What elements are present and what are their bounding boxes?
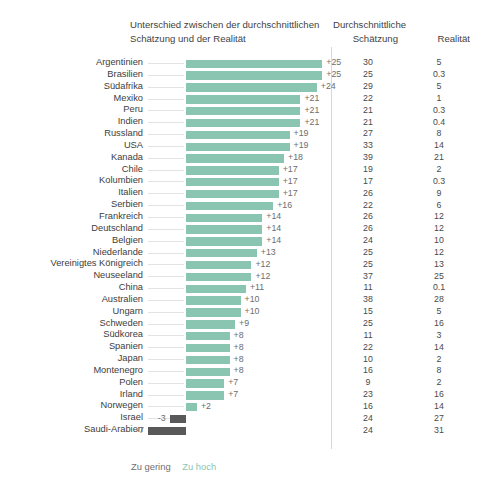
average-estimate-value: 10 [340, 354, 396, 366]
reality-value: 14 [410, 342, 468, 354]
reality-value: 12 [410, 247, 468, 259]
difference-title-line2: Schätzung und der Realität [130, 33, 246, 44]
difference-value-label: +25 [326, 57, 341, 69]
difference-bar [148, 427, 186, 435]
difference-bar [186, 332, 230, 340]
average-estimate-value: 16 [340, 401, 396, 413]
difference-value-label: +18 [288, 152, 303, 164]
estimate-column-title: Durchschnittliche Schätzung [333, 18, 405, 45]
difference-bar [170, 415, 186, 423]
average-estimate-value: 21 [340, 105, 396, 117]
reality-value: 0.3 [410, 69, 468, 81]
average-estimate-value: 39 [340, 152, 396, 164]
average-estimate-value: 16 [340, 365, 396, 377]
reality-value: 0.3 [410, 105, 468, 117]
average-estimate-value: 25 [340, 247, 396, 259]
reality-value: 31 [410, 425, 468, 437]
difference-value-label: +12 [255, 271, 270, 283]
chart-rows: Argentinien+25305Brasilien+25250.3Südafr… [0, 58, 480, 437]
difference-value-label: +19 [294, 140, 309, 152]
average-estimate-value: 22 [340, 342, 396, 354]
average-estimate-value: 25 [340, 259, 396, 271]
difference-bar [186, 202, 273, 210]
difference-bar [186, 190, 279, 198]
difference-value-label: +8 [234, 330, 244, 342]
difference-value-label: +14 [266, 211, 281, 223]
reality-value: 6 [410, 200, 468, 212]
average-estimate-value: 38 [340, 294, 396, 306]
average-estimate-value: 24 [340, 425, 396, 437]
difference-value-label: +11 [250, 282, 264, 294]
average-estimate-value: 21 [340, 117, 396, 129]
legend-too-low: Zu gering [131, 461, 171, 472]
difference-bar [186, 285, 246, 293]
difference-bar [186, 131, 290, 139]
reality-value: 0.3 [410, 176, 468, 188]
difference-bar [186, 368, 230, 376]
reality-value: 13 [410, 259, 468, 271]
difference-bar [186, 107, 300, 115]
difference-value-label: +21 [304, 117, 319, 129]
difference-value-label: +21 [304, 93, 319, 105]
reality-value: 8 [410, 128, 468, 140]
difference-bar [186, 308, 241, 316]
difference-bar [186, 71, 322, 79]
difference-bar [186, 119, 300, 127]
reality-value: 12 [410, 211, 468, 223]
reality-value: 5 [410, 81, 468, 93]
reality-value: 9 [410, 188, 468, 200]
reality-value: 5 [410, 306, 468, 318]
average-estimate-value: 30 [340, 57, 396, 69]
difference-bar [186, 83, 317, 91]
difference-value-label: +2 [201, 401, 211, 413]
difference-value-label: +8 [234, 354, 244, 366]
difference-bar [186, 249, 257, 257]
difference-value-label: +7 [228, 389, 238, 401]
difference-value-label: +17 [283, 176, 298, 188]
difference-value-label: -3 [153, 413, 166, 425]
reality-value: 28 [410, 294, 468, 306]
average-estimate-value: 22 [340, 200, 396, 212]
difference-bar [186, 154, 284, 162]
bar-chart-figure: Unterschied zwischen der durchschnittlic… [0, 0, 480, 492]
difference-value-label: +8 [234, 342, 244, 354]
reality-value: 10 [410, 235, 468, 247]
difference-bar [186, 391, 224, 399]
average-estimate-value: 23 [340, 389, 396, 401]
reality-value: 16 [410, 389, 468, 401]
difference-bar [186, 178, 279, 186]
difference-value-label: +14 [266, 235, 281, 247]
difference-value-label: -7 [131, 425, 144, 437]
reality-value: 12 [410, 223, 468, 235]
reality-value: 2 [410, 354, 468, 366]
reality-column-title: Realität [404, 32, 470, 46]
average-estimate-value: 9 [340, 377, 396, 389]
difference-bar [186, 166, 279, 174]
average-estimate-value: 37 [340, 271, 396, 283]
reality-value: 0.1 [410, 282, 468, 294]
difference-value-label: +17 [283, 164, 298, 176]
reality-value: 2 [410, 164, 468, 176]
difference-column-title: Unterschied zwischen der durchschnittlic… [130, 18, 340, 45]
chart-row: Saudi-Arabien-72431 [0, 425, 480, 437]
average-estimate-value: 26 [340, 211, 396, 223]
average-estimate-value: 25 [340, 69, 396, 81]
average-estimate-value: 24 [340, 235, 396, 247]
difference-value-label: +19 [294, 128, 309, 140]
difference-bar [186, 237, 262, 245]
difference-bar [186, 296, 241, 304]
difference-value-label: +25 [326, 69, 341, 81]
estimate-title-line2: Schätzung [333, 32, 405, 46]
reality-value: 21 [410, 152, 468, 164]
reality-value: 0.4 [410, 117, 468, 129]
difference-value-label: +10 [245, 294, 260, 306]
average-estimate-value: 15 [340, 306, 396, 318]
average-estimate-value: 24 [340, 413, 396, 425]
reality-value: 1 [410, 93, 468, 105]
difference-value-label: +21 [304, 105, 319, 117]
average-estimate-value: 17 [340, 176, 396, 188]
difference-value-label: +7 [228, 377, 238, 389]
average-estimate-value: 29 [340, 81, 396, 93]
chart-header: Unterschied zwischen der durchschnittlic… [0, 18, 480, 56]
difference-bar [186, 320, 235, 328]
